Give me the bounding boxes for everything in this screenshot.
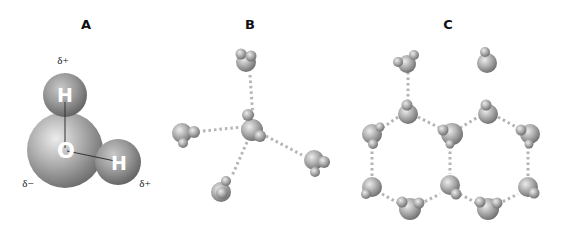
- hydrogen-symbol-right: H: [111, 152, 127, 174]
- tetrahedral-cluster-b: [172, 49, 330, 203]
- panel-label-b: B: [245, 17, 255, 32]
- water-molecule: [362, 123, 385, 150]
- hydrogen-symbol-top: H: [57, 84, 73, 106]
- water-molecule-a: H O H δ+ δ− δ+: [22, 54, 150, 189]
- charge-delta-plus-right: δ+: [139, 177, 150, 189]
- hydrogen-bond: [498, 117, 518, 128]
- ice-lattice-c: [361, 47, 540, 220]
- hydrogen-bond: [460, 117, 478, 128]
- water-molecule: [438, 123, 464, 149]
- water-molecule: [397, 197, 425, 221]
- hydrogen-bond: [418, 117, 440, 128]
- water-molecule: [236, 49, 257, 73]
- water-molecule: [440, 175, 462, 200]
- water-molecule: [477, 47, 497, 73]
- panel-label-c: C: [443, 17, 453, 32]
- water-molecule: [172, 123, 200, 148]
- water-molecule-center: [241, 109, 266, 142]
- panel-label-a: A: [81, 17, 91, 32]
- charge-delta-plus-top: δ+: [57, 54, 68, 66]
- oxygen-symbol: O: [57, 139, 75, 163]
- water-structure-diagram: A B C H O H δ+ δ− δ+: [0, 0, 564, 230]
- water-molecule: [398, 100, 418, 125]
- water-molecule: [393, 50, 419, 73]
- water-molecule: [518, 177, 540, 199]
- water-molecule: [478, 100, 498, 125]
- water-molecule: [304, 150, 330, 177]
- hydrogen-bond: [232, 142, 247, 176]
- charge-delta-minus: δ−: [22, 177, 33, 189]
- water-molecule: [475, 197, 503, 221]
- water-molecule: [361, 177, 382, 199]
- water-molecule: [516, 124, 541, 149]
- water-molecule: [211, 176, 231, 202]
- hydrogen-bond: [203, 127, 242, 131]
- hydrogen-bond: [266, 136, 302, 155]
